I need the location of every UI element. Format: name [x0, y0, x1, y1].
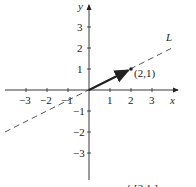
line-label: L	[165, 31, 172, 43]
vector-arrow	[89, 71, 128, 91]
y-tick-label: −1	[73, 105, 85, 117]
y-tick-label: −2	[73, 126, 85, 138]
y-tick-label: −3	[73, 147, 85, 159]
caption-partial: { [2 1 ]	[126, 182, 158, 187]
y-tick-label: 3	[77, 21, 83, 33]
x-tick-label: 3	[149, 94, 155, 106]
y-axis-label: y	[77, 0, 83, 12]
point-2-1	[129, 67, 133, 71]
y-tick-label: 2	[77, 42, 83, 54]
x-tick-label: 2	[128, 94, 134, 106]
coordinate-plane: −3 −2 −1 1 2 3 x 3 2 1 −1 −2 −3 y L (2,1…	[0, 0, 196, 187]
x-tick-label: 1	[107, 94, 113, 106]
y-tick-label: 1	[77, 63, 83, 75]
x-tick-label: −3	[19, 94, 31, 106]
x-tick-label: −2	[40, 94, 52, 106]
x-tick-label: −1	[61, 94, 73, 106]
point-label: (2,1)	[134, 67, 155, 80]
x-axis-label: x	[169, 94, 175, 106]
